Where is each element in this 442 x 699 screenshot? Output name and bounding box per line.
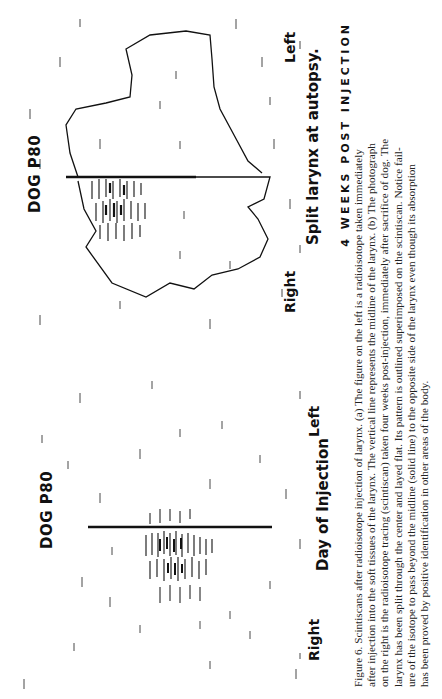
panel-title-day-of-injection: Day of Injection — [314, 438, 332, 571]
background-counts — [30, 19, 300, 329]
caption-line: larynx has been split through the center… — [392, 15, 405, 687]
caption-line: after injection into the soft tissues of… — [365, 15, 378, 687]
dog-label-panel-b: DOG P80 — [26, 135, 44, 213]
background-counts — [24, 381, 300, 689]
figure-page: DOG P80 Right Left Day of Injection — [0, 0, 442, 699]
larynx-outline-left-half — [66, 31, 262, 177]
side-label-right-panel-a: Right — [306, 619, 322, 661]
scintiscan-panel-day-of-injection: DOG P80 Right Left Day of Injection — [0, 349, 330, 699]
overall-title: 4 WEEKS POST INJECTION — [335, 0, 353, 699]
side-label-left-panel-a: Left — [306, 406, 322, 437]
isotope-cluster-dense — [106, 183, 124, 217]
scintiscan-split-larynx-graphic — [0, 0, 330, 349]
caption-line: ure of the isotope to pass beyond the mi… — [405, 15, 418, 687]
dog-label-panel-a: DOG P80 — [38, 471, 56, 549]
isotope-cluster — [92, 179, 145, 241]
side-label-right-panel-b: Right — [282, 271, 298, 313]
isotope-cluster — [146, 531, 212, 581]
scintiscan-panel-split-larynx: DOG P80 Right Left Split larynx at autop… — [0, 0, 330, 349]
side-label-left-panel-b: Left — [282, 32, 298, 63]
caption-line: on the right is the radioisotope tracing… — [378, 15, 391, 687]
caption-line: has been proved by positive identificati… — [418, 15, 431, 687]
larynx-outline-right-half — [78, 177, 270, 297]
panel-title-split-larynx: Split larynx at autopsy. — [304, 48, 322, 245]
caption-line: Figure 6. Scintiscans after radioisotope… — [352, 15, 365, 687]
figure-caption: Figure 6. Scintiscans after radioisotope… — [352, 15, 431, 687]
overall-title-text: 4 WEEKS POST INJECTION — [339, 22, 352, 247]
